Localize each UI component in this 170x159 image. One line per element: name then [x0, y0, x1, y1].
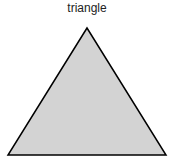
triangle-canvas: [0, 0, 170, 159]
triangle-shape: [8, 28, 166, 155]
